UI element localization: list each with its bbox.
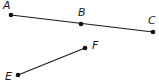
point-C	[151, 30, 156, 35]
point-F	[83, 46, 88, 51]
segment-EF	[18, 48, 85, 75]
label-C: C	[148, 14, 156, 27]
point-A	[9, 13, 14, 18]
label-B: B	[78, 6, 86, 19]
label-F: F	[92, 39, 99, 52]
label-A: A	[2, 0, 11, 12]
point-B	[79, 22, 84, 27]
point-E	[16, 73, 21, 78]
label-E: E	[5, 70, 12, 83]
geometry-diagram: A B C E F	[0, 0, 159, 83]
